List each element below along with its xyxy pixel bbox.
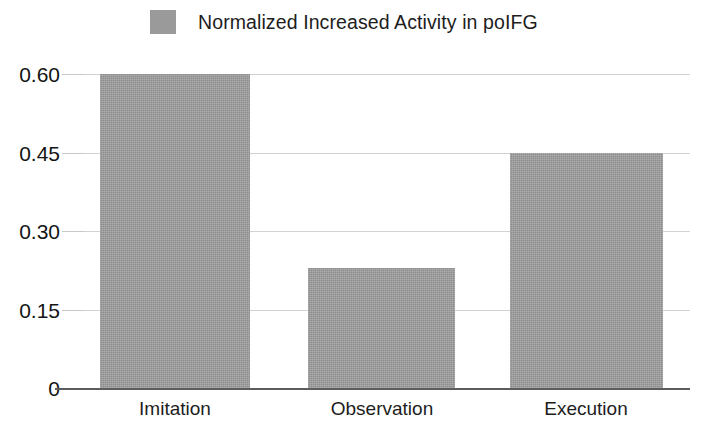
x-axis-label-execution: Execution: [544, 398, 627, 421]
y-axis-tick-label: 0.30: [2, 221, 60, 242]
x-axis-label-imitation: Imitation: [139, 398, 211, 421]
bar-imitation: [100, 74, 250, 388]
y-axis-tick-label: 0.60: [2, 64, 60, 85]
bar-observation: [308, 268, 455, 388]
y-axis-tick-label: 0: [2, 378, 60, 399]
y-axis-tick-mark: [62, 231, 86, 232]
x-axis: Imitation Observation Execution: [0, 398, 709, 432]
chart-legend: Normalized Increased Activity in poIFG: [150, 6, 538, 38]
legend-label: Normalized Increased Activity in poIFG: [198, 11, 538, 34]
y-axis-tick-mark: [62, 74, 86, 75]
x-axis-label-observation: Observation: [331, 398, 433, 421]
bar-chart-figure: Normalized Increased Activity in poIFG 0…: [0, 0, 709, 438]
y-axis-tick-label: 0.15: [2, 300, 60, 321]
y-axis-tick-mark: [62, 153, 86, 154]
plot-area: [85, 74, 690, 388]
x-axis-baseline: [55, 388, 690, 390]
legend-swatch-icon: [150, 10, 176, 34]
y-axis-tick-mark: [62, 310, 86, 311]
y-axis: 0 0.15 0.30 0.45 0.60: [0, 0, 60, 438]
y-axis-tick-label: 0.45: [2, 143, 60, 164]
bar-execution: [510, 153, 663, 389]
